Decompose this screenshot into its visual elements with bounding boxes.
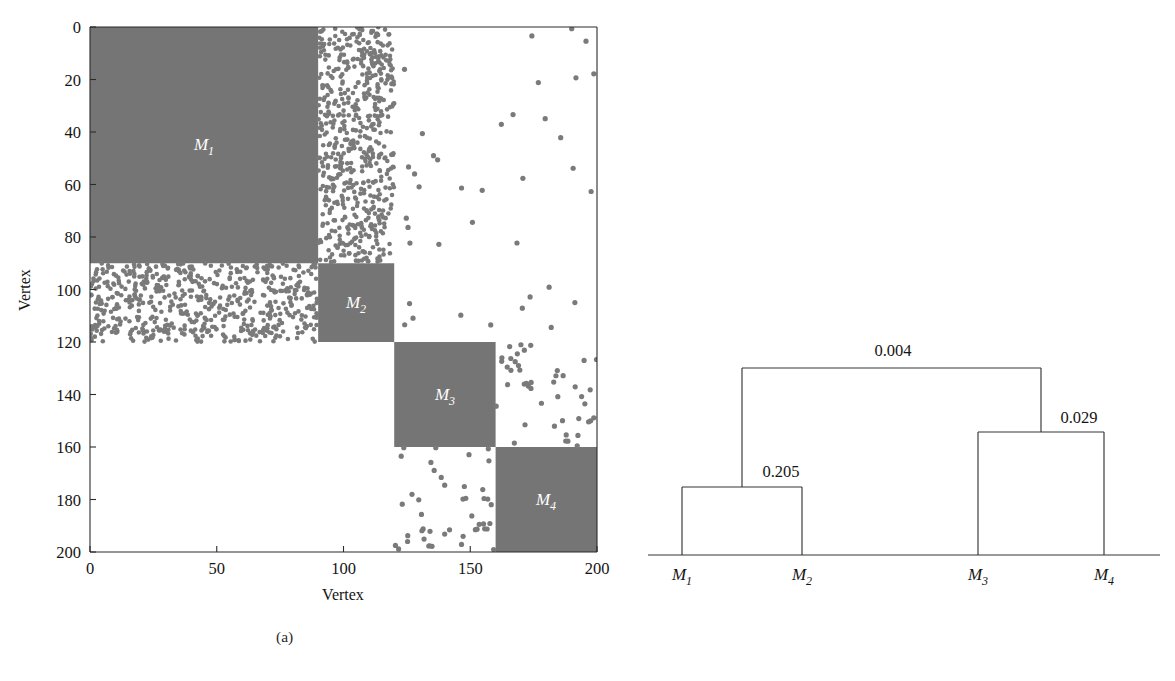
panel-adjacency-matrix: M1 M2 M3 M4 0501001502000204060801001201… bbox=[0, 0, 640, 681]
y-tick-label-180: 180 bbox=[56, 491, 81, 510]
x-tick-label-200: 200 bbox=[585, 559, 610, 578]
x-tick-label-100: 100 bbox=[331, 559, 356, 578]
y-tick-label-160: 160 bbox=[56, 438, 81, 457]
x-tick-label-150: 150 bbox=[458, 559, 483, 578]
y-tick-label-100: 100 bbox=[56, 281, 81, 300]
merge-height-label-1: 0.029 bbox=[1060, 408, 1097, 427]
leaf-label-m4: M4 bbox=[1093, 565, 1114, 588]
leaf-label-m1: M1 bbox=[671, 565, 692, 588]
y-tick-label-200: 200 bbox=[56, 543, 81, 562]
figure-root: M1 M2 M3 M4 0501001502000204060801001201… bbox=[0, 0, 1175, 681]
y-tick-label-20: 20 bbox=[65, 71, 82, 90]
y-axis-title: Vertex bbox=[16, 269, 33, 311]
x-axis-title: Vertex bbox=[322, 586, 364, 603]
leaf-label-m3: M3 bbox=[967, 565, 988, 588]
panel-dendrogram: 0.205 0.029 0.004 M1 M2 M3 M4 (b) bbox=[640, 0, 1175, 681]
y-tick-label-140: 140 bbox=[56, 386, 81, 405]
y-tick-label-80: 80 bbox=[65, 228, 82, 247]
merge-height-label-2: 0.004 bbox=[874, 341, 911, 360]
y-tick-label-40: 40 bbox=[65, 123, 82, 142]
x-tick-label-0: 0 bbox=[86, 559, 94, 578]
y-tick-label-120: 120 bbox=[56, 333, 81, 352]
leaf-label-m2: M2 bbox=[791, 565, 812, 588]
x-tick-label-50: 50 bbox=[209, 559, 226, 578]
subcaption-a: (a) bbox=[276, 628, 293, 646]
y-tick-label-0: 0 bbox=[73, 18, 81, 37]
dendrogram-plot: 0.205 0.029 0.004 M1 M2 M3 M4 bbox=[640, 0, 1175, 620]
adjacency-matrix-plot: M1 M2 M3 M4 0501001502000204060801001201… bbox=[0, 0, 640, 620]
y-tick-label-60: 60 bbox=[65, 176, 82, 195]
merge-height-label-0: 0.205 bbox=[762, 462, 799, 481]
